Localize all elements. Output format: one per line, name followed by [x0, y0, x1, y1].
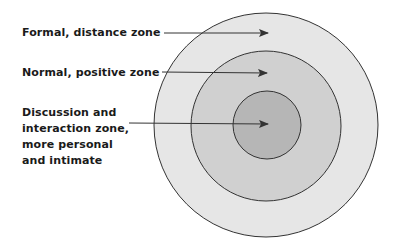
discussion-zone-label-line-2: interaction zone,	[22, 121, 129, 137]
discussion-zone-label: Discussion and interaction zone, more pe…	[22, 105, 129, 169]
formal-zone-label: Formal, distance zone	[22, 25, 161, 41]
formal-zone-label-line: Formal, distance zone	[22, 25, 161, 41]
discussion-zone-label-line-4: and intimate	[22, 153, 129, 169]
inner-discussion-zone-circle	[233, 91, 301, 159]
discussion-zone-label-line-1: Discussion and	[22, 105, 129, 121]
normal-zone-label-line: Normal, positive zone	[22, 65, 159, 81]
normal-zone-label: Normal, positive zone	[22, 65, 159, 81]
discussion-zone-label-line-3: more personal	[22, 137, 129, 153]
